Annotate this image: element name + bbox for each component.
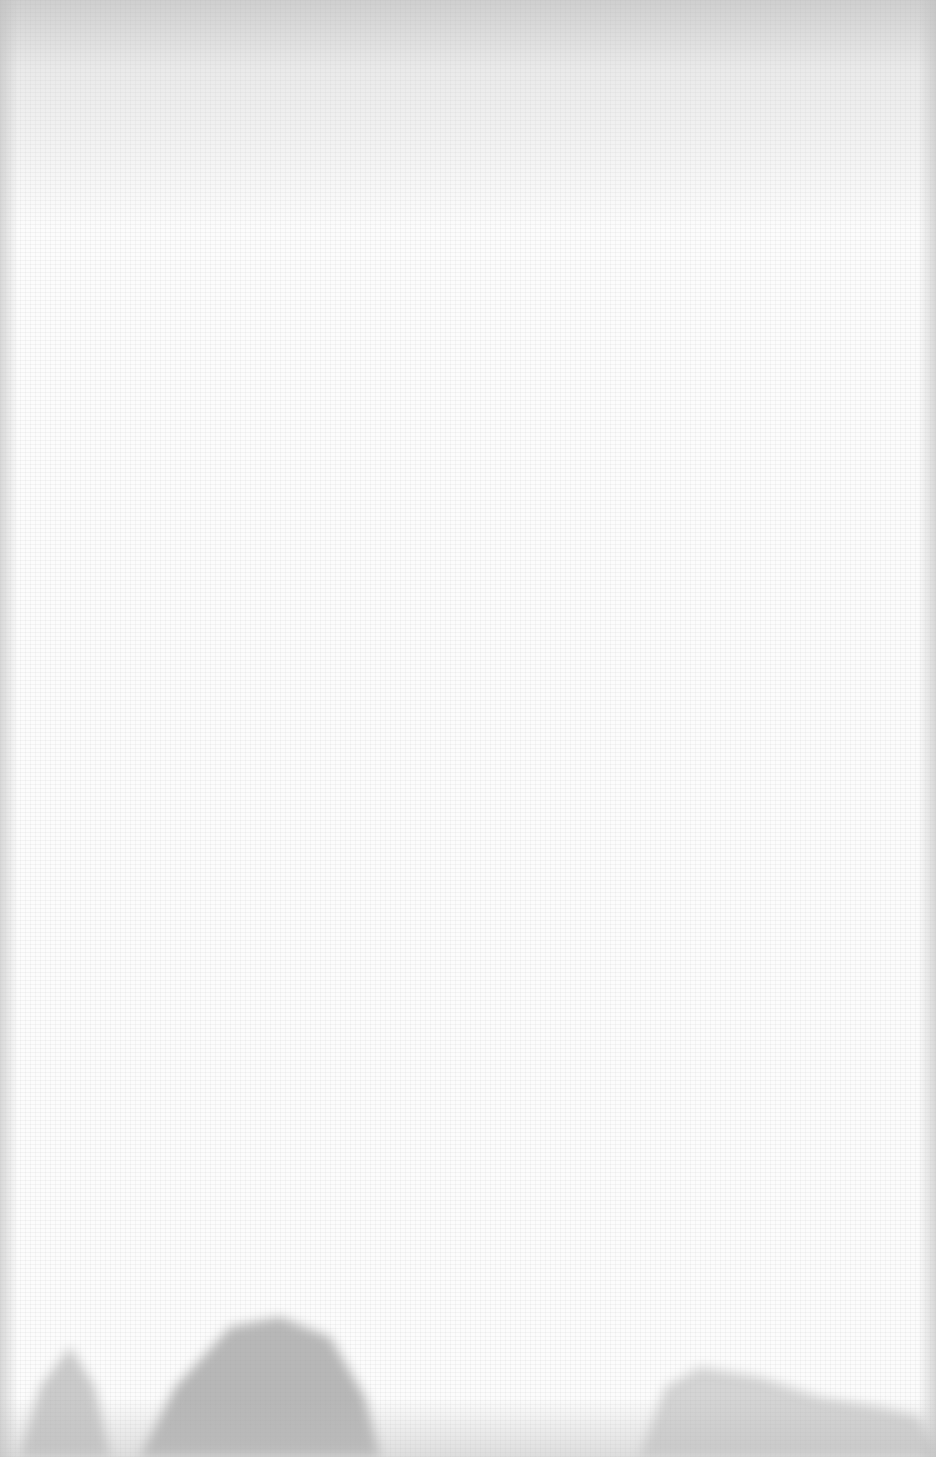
paper-canvas: [0, 0, 936, 1457]
left-edge-shadow: [0, 0, 18, 1457]
right-edge-shadow: [918, 0, 936, 1457]
top-vignette: [0, 0, 936, 230]
bottom-shade: [0, 1397, 936, 1457]
